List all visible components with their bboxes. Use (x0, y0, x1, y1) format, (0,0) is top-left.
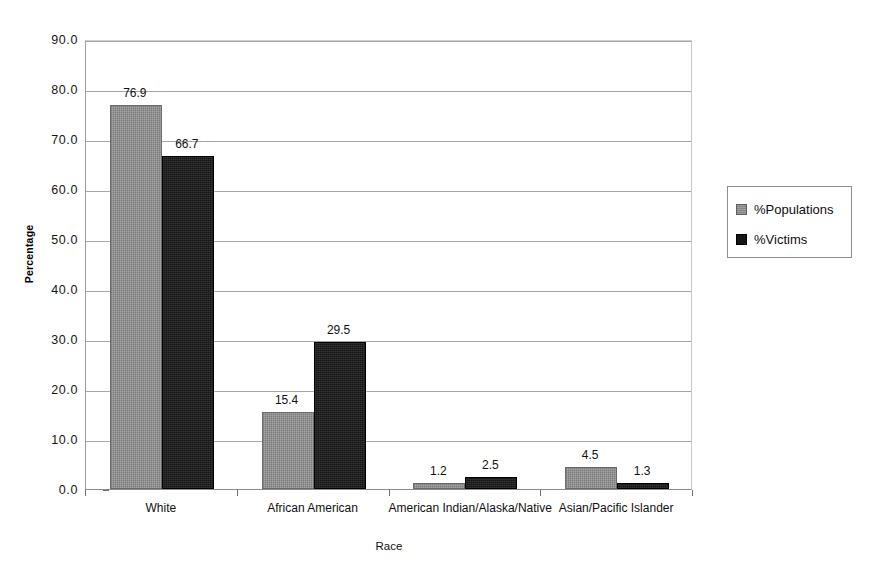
bar (314, 342, 366, 490)
y-axis-tick-label: 30.0 (32, 334, 78, 347)
bar (465, 477, 517, 490)
y-axis-tick-mark (103, 490, 109, 491)
bar-value-label: 66.7 (151, 138, 223, 150)
legend-item-label: %Populations (754, 203, 834, 216)
y-axis-tick-label: 0.0 (32, 484, 78, 497)
legend-item: %Victims (736, 226, 851, 252)
y-axis-tick-label: 80.0 (32, 84, 78, 97)
bar-value-label: 29.5 (303, 324, 375, 336)
bar-value-label: 4.5 (554, 449, 626, 461)
bar (262, 412, 314, 489)
x-axis-tick-mark (85, 490, 86, 496)
bar-value-label: 1.3 (606, 465, 678, 477)
bar (617, 483, 669, 490)
x-axis-tick-label: Asian/Pacific Islander (540, 502, 692, 515)
legend-swatch-icon (736, 204, 747, 215)
x-axis-tick-mark (237, 490, 238, 496)
y-axis-tick-labels: 90.080.070.060.050.040.030.020.010.00.0 (24, 0, 78, 576)
x-axis-tick-label: American Indian/Alaska/Native (389, 502, 541, 515)
gridline (86, 41, 691, 42)
y-axis-tick-label: 90.0 (32, 34, 78, 47)
bar-value-label: 76.9 (99, 87, 171, 99)
bar-value-label: 2.5 (454, 459, 526, 471)
chart-page: Percentage 90.080.070.060.050.040.030.02… (0, 0, 878, 576)
bar (110, 105, 162, 490)
legend-swatch-icon (736, 234, 747, 245)
x-axis-tick-label: White (85, 502, 237, 515)
gridline (86, 91, 691, 92)
y-axis-tick-label: 10.0 (32, 434, 78, 447)
x-axis-tick-mark (540, 490, 541, 496)
bar (162, 156, 214, 490)
bar-value-label: 15.4 (251, 394, 323, 406)
y-axis-tick-label: 20.0 (32, 384, 78, 397)
y-axis-tick-label: 40.0 (32, 284, 78, 297)
y-axis-tick-label: 50.0 (32, 234, 78, 247)
x-axis-tick-mark (692, 490, 693, 496)
y-axis-tick-label: 60.0 (32, 184, 78, 197)
bar (413, 483, 465, 489)
x-axis-title: Race (0, 540, 778, 552)
legend-item: %Populations (736, 196, 851, 222)
x-axis-tick-label: African American (237, 502, 389, 515)
chart-legend: %Populations%Victims (727, 186, 852, 258)
legend-item-label: %Victims (754, 233, 807, 246)
x-axis-tick-mark (389, 490, 390, 496)
y-axis-tick-label: 70.0 (32, 134, 78, 147)
plot-area (85, 40, 692, 490)
